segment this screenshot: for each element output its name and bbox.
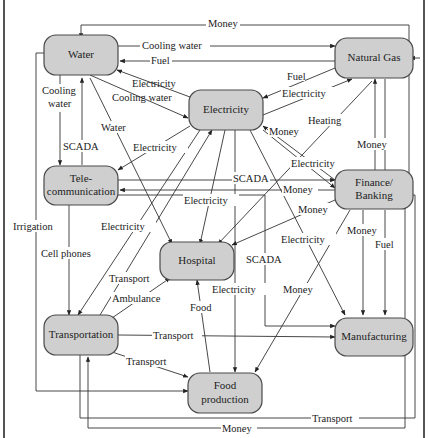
label-money-gas-fin: Money xyxy=(357,139,387,150)
label-irrigation: Irrigation xyxy=(13,221,53,232)
label-money-food: Money xyxy=(283,284,313,295)
node-water-label: Water xyxy=(68,48,94,60)
label-fuel-gas-elec: Fuel xyxy=(287,71,306,82)
node-telecom-label-1: Tele- xyxy=(70,172,93,184)
label-transport-bottom: Transport xyxy=(312,413,353,424)
label-elec-water: Electricity xyxy=(132,78,176,89)
node-hospital: Hospital xyxy=(160,242,234,280)
node-natural-gas-label: Natural Gas xyxy=(348,51,401,63)
label-heating: Heating xyxy=(308,115,342,126)
label-cooling-water-top: Cooling water xyxy=(142,40,202,51)
label-elec-mfg: Electricity xyxy=(281,234,325,245)
edge-labels: Money Cooling water Fuel Electricity Coo… xyxy=(12,17,398,434)
label-money-bottom: Money xyxy=(222,423,252,434)
node-transportation: Transportation xyxy=(44,315,118,355)
node-electricity-label: Electricity xyxy=(203,103,249,115)
label-money-fin-elec: Money xyxy=(269,126,299,137)
label-fuel-top: Fuel xyxy=(151,55,170,66)
node-food-label-1: Food xyxy=(214,379,237,391)
label-fuel-fin: Fuel xyxy=(375,239,394,250)
node-manufacturing-label: Manufacturing xyxy=(341,330,407,342)
label-scada-mid: SCADA xyxy=(233,173,269,184)
label-money-top: Money xyxy=(208,18,238,29)
label-transport-mfg: Transport xyxy=(153,330,194,341)
label-elec-hospital: Electricity xyxy=(184,195,228,206)
label-cooling-water-elec: Cooling water xyxy=(112,92,172,103)
label-elec-transport: Electricity xyxy=(101,221,145,232)
node-natural-gas: Natural Gas xyxy=(335,38,413,78)
label-water: Water xyxy=(101,122,126,133)
node-manufacturing: Manufacturing xyxy=(335,318,413,356)
label-cooling-1: Cooling xyxy=(42,85,77,96)
node-finance-label-2: Banking xyxy=(355,189,393,201)
label-elec-telecom: Electricity xyxy=(133,142,177,153)
label-cooling-2: water xyxy=(48,98,72,109)
label-money-telecom-fin: Money xyxy=(283,184,313,195)
label-scada-water: SCADA xyxy=(63,141,99,152)
node-finance-label-1: Finance/ xyxy=(355,176,394,188)
node-water: Water xyxy=(44,35,118,75)
label-food: Food xyxy=(190,302,212,313)
label-elec-fin: Electricity xyxy=(291,158,335,169)
node-transportation-label: Transportation xyxy=(49,328,114,340)
node-hospital-label: Hospital xyxy=(178,254,215,266)
node-electricity: Electricity xyxy=(189,90,263,130)
label-transport-hospital: Transport xyxy=(109,273,150,284)
label-money-fin-hospital: Money xyxy=(298,204,328,215)
node-telecommunication: Tele- communication xyxy=(44,166,118,205)
label-ambulance: Ambulance xyxy=(112,293,161,304)
label-scada-mfg: SCADA xyxy=(246,254,282,265)
label-cell-phones: Cell phones xyxy=(41,248,91,259)
label-elec-food: Electricity xyxy=(212,284,256,295)
label-elec-gas: Electricity xyxy=(282,88,326,99)
label-transport-food: Transport xyxy=(126,356,167,367)
interdependency-diagram: Money Cooling water Fuel Electricity Coo… xyxy=(0,0,429,438)
label-money-fin-mfg: Money xyxy=(347,225,377,236)
node-food-label-2: production xyxy=(201,393,249,405)
node-food-production: Food production xyxy=(188,373,262,413)
node-finance-banking: Finance/ Banking xyxy=(335,170,413,209)
node-telecom-label-2: communication xyxy=(47,185,116,197)
